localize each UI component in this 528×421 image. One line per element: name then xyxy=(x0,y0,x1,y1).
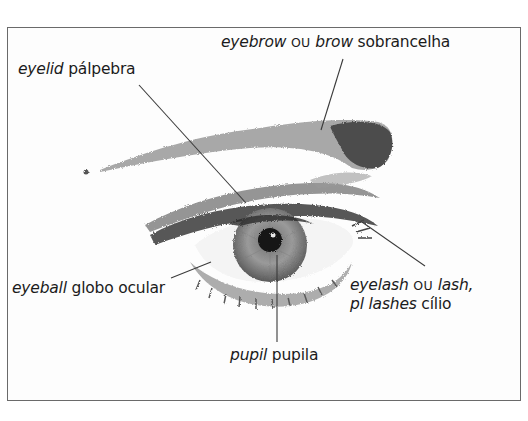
plural-prefix: pl xyxy=(350,295,364,313)
leader-line-eyelash xyxy=(362,222,425,266)
term-eyeball: eyeball xyxy=(12,279,67,297)
connector-ou: OU xyxy=(413,278,433,293)
term-eyelash: eyelash xyxy=(350,276,409,294)
term-pupil: pupil xyxy=(230,346,267,364)
label-pupil: pupil pupila xyxy=(230,346,318,364)
translation-globo-ocular: globo ocular xyxy=(72,279,165,297)
eyebrow-drawing xyxy=(84,120,393,175)
translation-palpebra: pálpebra xyxy=(68,60,135,78)
label-eyelash-line-1: eyelash OU lash, xyxy=(350,276,473,295)
translation-cilio: cílio xyxy=(421,295,451,313)
label-eyebrow: eyebrow OU brow sobrancelha xyxy=(221,33,450,52)
label-eyeball: eyeball globo ocular xyxy=(12,279,165,297)
term-lash: lash, xyxy=(438,276,474,294)
translation-pupila: pupila xyxy=(272,346,318,364)
term-eyelid: eyelid xyxy=(18,60,64,78)
label-eyelid: eyelid pálpebra xyxy=(18,60,135,78)
term-eyebrow: eyebrow xyxy=(221,33,286,51)
leader-line-eyebrow xyxy=(321,59,343,130)
term-brow: brow xyxy=(315,33,353,51)
connector-ou: OU xyxy=(291,35,311,50)
label-eyelash-line-2: pl lashes cílio xyxy=(350,295,473,313)
label-eyelash: eyelash OU lash, pl lashes cílio xyxy=(350,276,473,313)
eye-drawing xyxy=(150,204,378,309)
translation-sobrancelha: sobrancelha xyxy=(358,33,451,51)
term-lashes: lashes xyxy=(368,295,416,313)
